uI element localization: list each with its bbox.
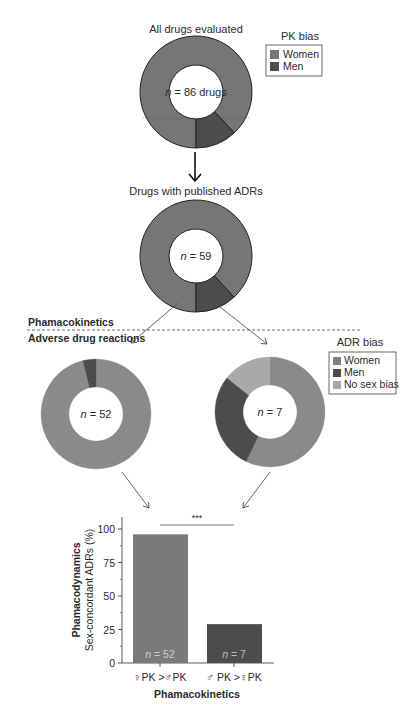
pk-legend-men: Men	[283, 60, 304, 72]
left-donut-center-label: n = 52	[81, 408, 112, 420]
adr-legend-title: ADR bias	[337, 336, 384, 348]
top-donut-center-label: n = 86 drugs	[165, 86, 227, 98]
adr-legend: Women Men No sex bias	[329, 352, 399, 394]
y-tick-label: 75	[103, 557, 115, 569]
right-donut-center-label: n = 7	[258, 406, 283, 418]
y-axis-label-bold: Phamacodynamics	[70, 542, 82, 637]
x-category-male: ♂ PK >♀PK	[206, 671, 262, 683]
bar1-n-label: n = 52	[145, 648, 175, 660]
bar-female-pk	[133, 534, 188, 663]
pk-legend-title: PK bias	[281, 30, 319, 42]
arrow-to-bar2-icon	[243, 472, 270, 508]
bar2-n-label: n = 7	[222, 648, 246, 660]
pk-legend-women: Women	[283, 48, 319, 60]
legend-swatch-men	[270, 62, 279, 71]
adr-legend-men: Men	[344, 366, 365, 378]
arrow-to-bar1-icon	[122, 472, 149, 508]
arrow-to-right-donut-icon	[215, 303, 267, 344]
divider-lower-label: Adverse drug reactions	[28, 332, 145, 344]
y-axis-label: Sex-concordant ADRs (%)	[83, 529, 95, 652]
x-category-female: ♀PK >♂PK	[134, 671, 187, 683]
y-tick-label: 25	[103, 624, 115, 636]
x-axis-label: Phamacokinetics	[154, 688, 240, 700]
pk-legend: Women Men	[266, 45, 322, 76]
y-tick-label: 50	[103, 590, 115, 602]
y-tick-label: 0	[109, 657, 115, 669]
adr-legend-women: Women	[344, 354, 380, 366]
figure-canvas: All drugs evaluated n = 86 drugs PK bias…	[0, 0, 415, 719]
significance-label: ***	[192, 513, 203, 523]
y-tick-label: 100	[97, 523, 115, 535]
bar-chart: 0255075100 n = 52 n = 7 ♀PK >♂PK ♂ PK >♀…	[70, 513, 274, 700]
y-axis-ticks: 0255075100	[97, 523, 122, 669]
legend-swatch-women	[270, 50, 279, 59]
adr-legend-no-bias: No sex bias	[344, 378, 399, 390]
mid-donut-title: Drugs with published ADRs	[129, 185, 263, 197]
mid-donut-center-label: n = 59	[181, 250, 212, 262]
divider-upper-label: Phamacokinetics	[28, 316, 114, 328]
top-donut-title: All drugs evaluated	[149, 23, 243, 35]
